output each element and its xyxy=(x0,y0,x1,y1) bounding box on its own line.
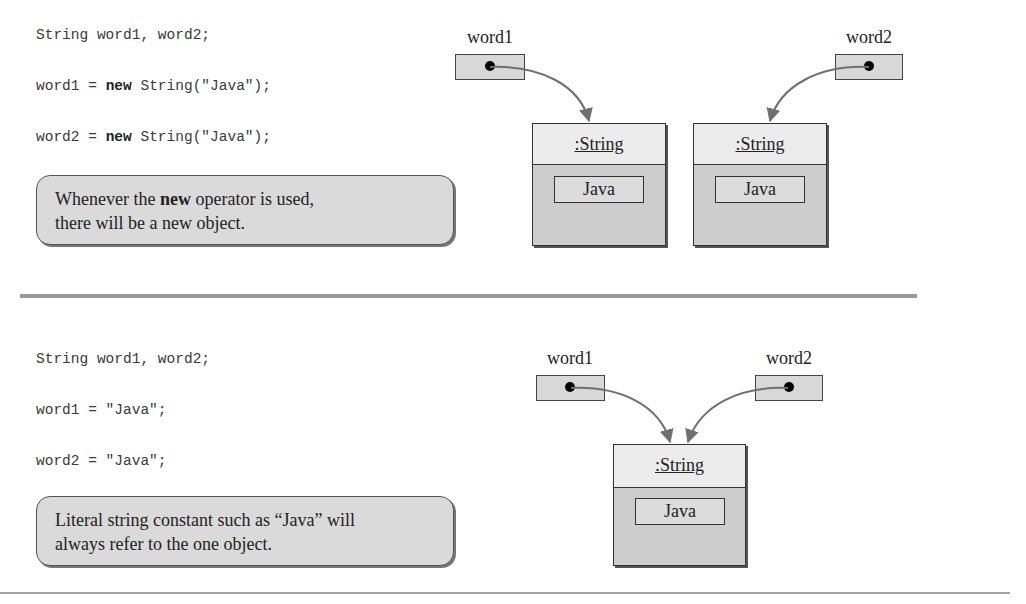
reference-dot-icon xyxy=(864,61,874,71)
string-object-1: :String Java xyxy=(532,123,666,246)
callout-note-literal-string: Literal string constant such as “Java” w… xyxy=(36,496,454,566)
note-text: there will be a new object. xyxy=(55,213,245,233)
object-type-header: :String xyxy=(694,124,826,165)
code-line-declaration: String word1, word2; xyxy=(36,26,210,44)
reference-box-word2 xyxy=(755,375,823,401)
panel-separator xyxy=(20,294,917,298)
variable-label-word2: word2 xyxy=(749,348,829,369)
code-line-word2-assign: word2 = "Java"; xyxy=(36,452,167,470)
code-text: String word1, word2; xyxy=(36,27,210,43)
reference-dot-icon xyxy=(565,382,575,392)
object-value-field: Java xyxy=(715,176,805,203)
bottom-separator xyxy=(0,592,1010,594)
code-line-word1-assign: word1 = new String("Java"); xyxy=(36,77,271,95)
note-text: Whenever the xyxy=(55,189,160,209)
object-value-field: Java xyxy=(554,176,644,203)
code-text: word1 = "Java"; xyxy=(36,402,167,418)
object-type-header: :String xyxy=(614,445,745,488)
note-text: Literal string constant such as “Java” w… xyxy=(55,510,355,530)
callout-note-new-operator: Whenever the new operator is used, there… xyxy=(36,175,454,245)
new-keyword: new xyxy=(106,129,132,145)
variable-label-word1: word1 xyxy=(450,27,530,48)
code-text: String("Java"); xyxy=(132,78,271,94)
code-line-word1-assign: word1 = "Java"; xyxy=(36,401,167,419)
code-text: word2 = "Java"; xyxy=(36,453,167,469)
code-text: String word1, word2; xyxy=(36,351,210,367)
code-text: word1 = xyxy=(36,78,106,94)
object-value-field: Java xyxy=(635,498,725,525)
note-bold-keyword: new xyxy=(160,189,191,209)
reference-box-word2 xyxy=(835,54,903,80)
reference-dot-icon xyxy=(485,61,495,71)
code-text: word2 = xyxy=(36,129,106,145)
variable-label-word2: word2 xyxy=(829,27,909,48)
reference-box-word1 xyxy=(455,54,525,80)
string-object-shared: :String Java xyxy=(613,444,746,566)
code-line-word2-assign: word2 = new String("Java"); xyxy=(36,128,271,146)
note-text: always refer to the one object. xyxy=(55,534,272,554)
reference-dot-icon xyxy=(784,382,794,392)
new-keyword: new xyxy=(106,78,132,94)
reference-box-word1 xyxy=(536,375,605,401)
variable-label-word1: word1 xyxy=(530,348,610,369)
note-text: operator is used, xyxy=(191,189,314,209)
code-text: String("Java"); xyxy=(132,129,271,145)
string-object-2: :String Java xyxy=(693,123,827,246)
code-line-declaration: String word1, word2; xyxy=(36,350,210,368)
object-type-header: :String xyxy=(533,124,665,165)
